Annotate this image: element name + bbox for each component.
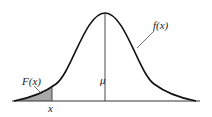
mean-label: μ bbox=[99, 74, 106, 86]
cdf-shaded-area bbox=[14, 87, 52, 101]
cdf-label: F(x) bbox=[21, 75, 41, 88]
normal-distribution-diagram: f(x) F(x) μ x bbox=[0, 0, 212, 117]
pdf-leader-line bbox=[137, 31, 154, 48]
pdf-label: f(x) bbox=[153, 19, 169, 32]
x-label: x bbox=[47, 102, 53, 114]
cdf-leader-line bbox=[34, 86, 42, 94]
